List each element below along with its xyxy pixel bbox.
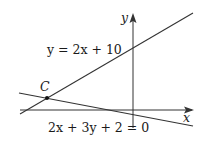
- x-axis-label: x: [183, 110, 190, 125]
- line-2-label: 2x + 3y + 2 = 0: [48, 120, 149, 135]
- y-axis-label: y: [120, 10, 129, 25]
- coordinate-diagram: y x y = 2x + 10 2x + 3y + 2 = 0 C: [0, 0, 204, 143]
- line-1-label: y = 2x + 10: [46, 42, 122, 57]
- point-c: [45, 96, 49, 100]
- point-c-label: C: [40, 79, 50, 94]
